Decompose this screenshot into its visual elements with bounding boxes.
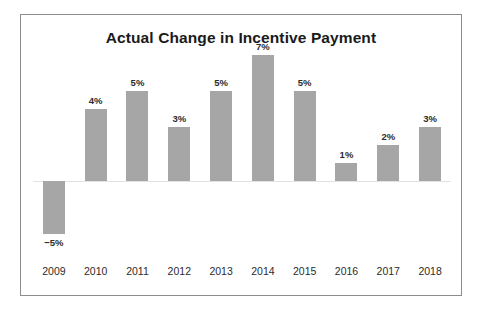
- plot-area: −5%4%5%3%5%7%5%1%2%3%: [33, 55, 451, 247]
- bar-value-label: 5%: [298, 77, 312, 88]
- bar-slot: 4%: [75, 55, 117, 247]
- bar-series: −5%4%5%3%5%7%5%1%2%3%: [33, 55, 451, 247]
- bar-slot: 2%: [367, 55, 409, 247]
- bar-slot: 5%: [284, 55, 326, 247]
- bar[interactable]: [377, 145, 399, 181]
- bar-slot: −5%: [33, 55, 75, 247]
- bar[interactable]: [126, 91, 148, 181]
- bar-value-label: 1%: [340, 149, 354, 160]
- bar-value-label: 5%: [214, 77, 228, 88]
- x-axis-tick-2009: 2009: [33, 265, 75, 281]
- bar-value-label: 5%: [131, 77, 145, 88]
- x-axis-tick-2017: 2017: [367, 265, 409, 281]
- bar-value-label: −5%: [44, 237, 63, 248]
- bar-slot: 1%: [326, 55, 368, 247]
- bar-slot: 5%: [117, 55, 159, 247]
- x-axis-tick-2015: 2015: [284, 265, 326, 281]
- bar-value-label: 3%: [423, 113, 437, 124]
- chart-frame: Actual Change in Incentive Payment −5%4%…: [20, 14, 462, 296]
- bar-value-label: 3%: [172, 113, 186, 124]
- x-axis-tick-2016: 2016: [326, 265, 368, 281]
- bar-slot: 7%: [242, 55, 284, 247]
- bar[interactable]: [252, 55, 274, 181]
- x-axis-tick-2010: 2010: [75, 265, 117, 281]
- bar[interactable]: [85, 109, 107, 181]
- bar-slot: 5%: [200, 55, 242, 247]
- x-axis-tick-2011: 2011: [117, 265, 159, 281]
- bar[interactable]: [210, 91, 232, 181]
- x-axis-tick-2012: 2012: [158, 265, 200, 281]
- bar[interactable]: [419, 127, 441, 181]
- x-axis-labels: 2009201020112012201320142015201620172018: [33, 265, 451, 281]
- bar-slot: 3%: [409, 55, 451, 247]
- bar-value-label: 7%: [256, 41, 270, 52]
- bar[interactable]: [43, 181, 65, 234]
- x-axis-tick-2014: 2014: [242, 265, 284, 281]
- chart-title: Actual Change in Incentive Payment: [21, 29, 461, 47]
- bar-value-label: 2%: [381, 131, 395, 142]
- bar-slot: 3%: [158, 55, 200, 247]
- x-axis-tick-2018: 2018: [409, 265, 451, 281]
- bar[interactable]: [294, 91, 316, 181]
- bar[interactable]: [335, 163, 357, 181]
- x-axis-tick-2013: 2013: [200, 265, 242, 281]
- bar[interactable]: [168, 127, 190, 181]
- bar-value-label: 4%: [89, 95, 103, 106]
